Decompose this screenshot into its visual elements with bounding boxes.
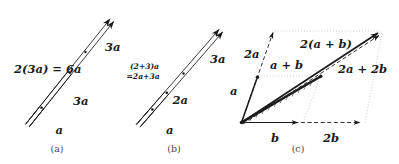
tip-dot-a <box>256 76 259 79</box>
label-c-vector-a: a <box>230 84 237 98</box>
guide-right-slant <box>365 32 383 123</box>
origin-dot <box>240 121 244 125</box>
tip-dot-a <box>40 107 43 110</box>
label-c-vector-2b: 2b <box>322 131 339 145</box>
midpoint-dot-6a <box>84 51 86 53</box>
vector-a <box>136 108 154 127</box>
vector-a <box>26 107 44 127</box>
label-c-double-sum: 2(a + b) <box>299 37 352 51</box>
caption-a: (a) <box>50 143 63 154</box>
label-b-vector-2a: 2a <box>172 93 188 107</box>
label-a-equation: 2(3a) = 6a <box>13 62 81 76</box>
label-c-sum: a + b <box>270 58 303 72</box>
label-c-vector-b: b <box>271 131 279 145</box>
label-b-equation-line2: =2a+3a <box>127 72 160 81</box>
label-c-expanded: 2a + 2b <box>337 62 387 76</box>
tip-dot-2a <box>166 92 169 95</box>
panel-c: a 2a b 2b a + b 2(a + b) 2a + 2b (c) <box>228 0 399 164</box>
junction-dot <box>182 72 184 74</box>
label-a-3a-lower: 3a <box>73 94 88 108</box>
caption-c: (c) <box>292 143 305 154</box>
vector-diagram-figure: a 3a 3a 2(3a) = 6a (a) <box>0 0 399 164</box>
tip-dot-a <box>151 108 154 111</box>
label-a-vector-a: a <box>56 123 63 137</box>
label-c-vector-2a: 2a <box>243 47 259 61</box>
panel-b: a 2a 3a (2+3)a =2a+3a (b) <box>122 0 242 164</box>
panel-a: a 3a 3a 2(3a) = 6a (a) <box>0 0 128 164</box>
caption-b: (b) <box>167 143 181 154</box>
vector-3a <box>26 71 72 126</box>
label-b-equation-line1: (2+3)a <box>130 62 159 71</box>
label-b-vector-a: a <box>166 123 173 137</box>
tip-dot-a-plus-b <box>319 75 322 78</box>
label-a-3a-upper: 3a <box>105 40 120 54</box>
label-b-vector-3a: 3a <box>210 52 225 66</box>
